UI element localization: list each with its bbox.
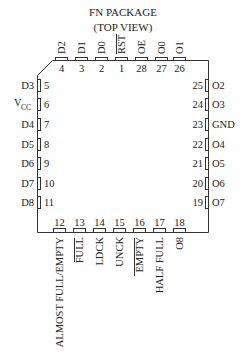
pin-right-7: 19 O7 (193, 197, 225, 209)
pin-pad (38, 139, 41, 151)
pin-number: 4 (59, 63, 65, 74)
pin-name: D4 (21, 119, 35, 130)
pin-right-2: 24 O3 (193, 99, 225, 111)
pin-bottom-2: 13 FULL (74, 217, 86, 263)
pin-name: D3 (21, 80, 34, 91)
fn-package-pinout-diagram: FN PACKAGE (TOP VIEW) 4 D2 3 D1 2 D0 (0, 0, 246, 364)
pin-number: 20 (193, 178, 204, 189)
pin-pad (206, 99, 209, 111)
pin-pad (74, 229, 86, 233)
pin-name: O2 (212, 80, 225, 91)
pin-pad (76, 58, 88, 61)
pin-left-6: 10 D7 (21, 178, 54, 190)
pin-name: O7 (212, 197, 225, 208)
pin-number: 27 (156, 63, 167, 74)
pin-pad (38, 80, 41, 92)
pin-name: O5 (212, 158, 225, 169)
pin-left-3: 7 D4 (21, 119, 49, 131)
pin-number: 24 (193, 99, 204, 110)
bottom-pins: 12 ALMOST FULL/EMPTY 13 FULL 14 LDCK 15 … (54, 217, 186, 347)
pin-pad (206, 119, 209, 131)
pin-bottom-4: 15 UNCK (114, 217, 126, 267)
pin-number: 18 (174, 217, 185, 228)
pin-number: 25 (193, 80, 204, 91)
pin-pad (134, 229, 146, 233)
pin-number: 7 (44, 119, 49, 130)
pin-left-1: 5 D3 (21, 80, 49, 92)
pin-name: O3 (212, 99, 225, 110)
pin-number: 22 (193, 139, 204, 150)
pin-name: EMPTY (134, 237, 145, 273)
right-pins: 25 O2 24 O3 23 GND 22 O4 21 O5 (193, 80, 236, 209)
pin-number: 12 (54, 217, 65, 228)
pin-pad (206, 178, 209, 190)
pin-pad (206, 158, 209, 170)
pin-name: O6 (212, 178, 225, 189)
pin-pad (206, 80, 209, 92)
pin-name: FULL (74, 237, 85, 263)
pin-name: D1 (76, 41, 87, 54)
pin-left-2: 6 V CC (14, 97, 49, 112)
pin-name: D0 (96, 41, 107, 54)
pin-number: 8 (44, 139, 49, 150)
pin-bottom-5: 16 EMPTY (134, 217, 146, 276)
pin-left-4: 8 D5 (21, 139, 49, 151)
pin-name: RST (116, 34, 127, 54)
pin-pad (96, 58, 108, 61)
pin-number: 10 (44, 178, 55, 189)
pin-pad (54, 229, 66, 233)
pin-pad (136, 58, 148, 61)
pin-name: O8 (174, 237, 185, 250)
pin-number: 14 (94, 217, 105, 228)
pin-number: 19 (193, 197, 204, 208)
pin-number: 9 (44, 158, 49, 169)
pin-pad (206, 139, 209, 151)
pin-right-5: 21 O5 (193, 158, 225, 170)
package-outline (38, 61, 209, 233)
pin-right-1: 25 O2 (193, 80, 225, 92)
pin-top-3: 2 D0 (96, 41, 108, 74)
pin-name: UNCK (114, 237, 125, 267)
pin-pad (94, 229, 106, 233)
pin-bottom-7: 18 O8 (174, 217, 186, 250)
pin-pad (38, 158, 41, 170)
pin-top-5: 28 OE (136, 40, 148, 74)
pin-pad (38, 178, 41, 190)
pin-pad (174, 229, 186, 233)
pin-pad (156, 58, 168, 61)
left-pins: 5 D3 6 V CC 7 D4 8 D5 9 D6 (14, 80, 55, 209)
top-pins: 4 D2 3 D1 2 D0 1 RST (56, 34, 186, 74)
pin-name: O4 (212, 139, 226, 150)
pin-right-3: 23 GND (193, 119, 236, 131)
pin-top-7: 26 O1 (174, 41, 186, 74)
pin-number: 1 (119, 63, 124, 74)
pin-number: 2 (99, 63, 104, 74)
pin-bottom-6: 17 HALF FULL (154, 217, 166, 293)
pin-name: HALF FULL (154, 237, 165, 293)
pin-left-7: 11 D8 (21, 197, 54, 209)
pin-number: 6 (44, 99, 49, 110)
pin-pad (114, 229, 126, 233)
pin-number: 13 (74, 217, 85, 228)
pin-top-1: 4 D2 (56, 41, 68, 74)
pin-pad (154, 229, 166, 233)
pin-name: LDCK (94, 237, 105, 266)
pin-pad (38, 119, 41, 131)
pin-pad (174, 58, 186, 61)
pin-name: D7 (21, 178, 34, 189)
pin-number: 16 (134, 217, 145, 228)
pin-number: 28 (136, 63, 147, 74)
pin-number: 11 (44, 197, 54, 208)
pin-left-5: 9 D6 (21, 158, 49, 170)
view-subtitle: (TOP VIEW) (94, 21, 153, 34)
pin-name: D6 (21, 158, 34, 169)
pin-number: 5 (44, 80, 49, 91)
package-title: FN PACKAGE (89, 6, 157, 18)
pin-number: 3 (79, 63, 84, 74)
pin-number: 26 (174, 63, 185, 74)
pin-number: 15 (114, 217, 125, 228)
pin-name: ALMOST FULL/EMPTY (54, 237, 65, 348)
pin-name: GND (212, 119, 235, 130)
pin-name: O1 (174, 41, 185, 54)
pin-name: D5 (21, 139, 34, 150)
